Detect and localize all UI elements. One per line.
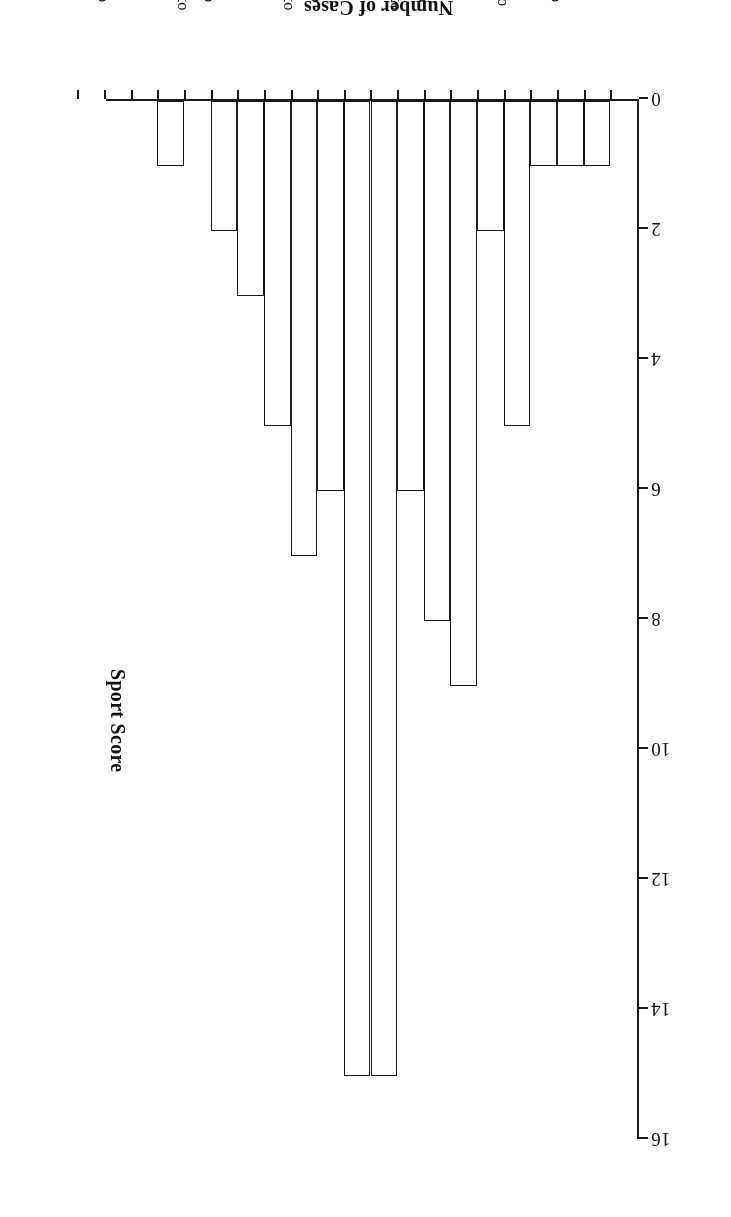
bar-series — [106, 101, 637, 1139]
value-axis-tick — [639, 357, 648, 359]
value-axis-title: Number of Cases — [112, 0, 645, 19]
histogram-bar — [317, 101, 344, 491]
category-axis-tick — [610, 90, 612, 99]
value-axis-tick-label: 14 — [651, 1000, 691, 1019]
histogram-bar — [291, 101, 318, 556]
value-axis-tick-label: 12 — [651, 870, 691, 889]
histogram-bar — [530, 101, 557, 166]
value-axis-line — [637, 99, 639, 1139]
chart-title: Sport Score — [106, 669, 129, 772]
value-axis-tick-label: 4 — [651, 350, 691, 369]
histogram-bar — [237, 101, 264, 296]
histogram-bar — [504, 101, 531, 426]
histogram-bar — [344, 101, 371, 1076]
histogram-bar — [157, 101, 184, 166]
value-axis-tick-label: 16 — [651, 1130, 691, 1149]
histogram-bar — [264, 101, 291, 426]
value-axis-tick — [639, 617, 648, 619]
histogram-bar — [424, 101, 451, 621]
histogram-bar — [557, 101, 584, 166]
value-axis-tick-label: 8 — [651, 610, 691, 629]
value-axis-tick — [639, 227, 648, 229]
histogram-bar — [584, 101, 611, 166]
value-axis-tick — [639, 1007, 648, 1009]
value-axis-tick-label: 2 — [651, 220, 691, 239]
value-axis-tick-label: 10 — [651, 740, 691, 759]
histogram-bar — [450, 101, 477, 686]
histogram-bar — [397, 101, 424, 491]
value-axis-tick — [639, 877, 648, 879]
histogram-bar — [211, 101, 238, 231]
plot-area: 0246810121416 ≤4.75>4.75 to ≤9.5>9.5 to … — [106, 99, 639, 1139]
histogram-bar — [371, 101, 398, 1076]
value-axis-tick-label: 0 — [651, 90, 691, 109]
value-axis-tick-label: 6 — [651, 480, 691, 499]
value-axis-tick — [639, 747, 648, 749]
value-axis-tick — [639, 97, 648, 99]
category-axis-label: >90.25 — [68, 0, 86, 97]
rotated-figure-wrapper: 0246810121416 ≤4.75>4.75 to ≤9.5>9.5 to … — [0, 0, 731, 1217]
value-axis-tick — [639, 1137, 648, 1139]
histogram-figure: 0246810121416 ≤4.75>4.75 to ≤9.5>9.5 to … — [0, 0, 731, 1217]
value-axis-tick — [639, 487, 648, 489]
histogram-bar — [477, 101, 504, 231]
